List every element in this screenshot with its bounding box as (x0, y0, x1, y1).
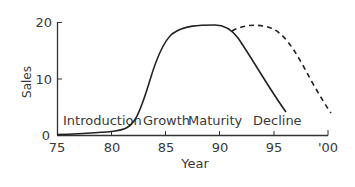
x-axis-title: Year (180, 156, 209, 171)
stage-label-maturity: Maturity (188, 113, 243, 128)
stage-label-decline: Decline (253, 113, 302, 128)
x-tick-label-90: 90 (212, 140, 229, 155)
x-tick-label-85: 85 (158, 140, 175, 155)
stage-label-growth: Growth (143, 113, 190, 128)
x-tick-label-80: 80 (104, 140, 121, 155)
y-tick-label-10: 10 (35, 72, 52, 87)
series-dashed-curve (232, 25, 331, 113)
x-tick-label-95: 95 (266, 140, 283, 155)
x-tick-label-75: 75 (49, 140, 66, 155)
y-axis-title: Sales (20, 66, 34, 98)
product-life-cycle-chart: 20 10 0 75 80 85 90 95 '00 Sales Year In… (0, 0, 355, 187)
y-tick-label-20: 20 (35, 15, 52, 30)
x-tick-label-00: '00 (318, 140, 338, 155)
